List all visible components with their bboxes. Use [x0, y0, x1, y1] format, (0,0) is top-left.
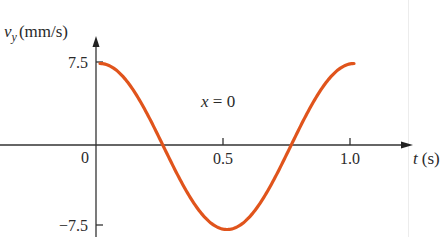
- annotation-label: x = 0: [200, 92, 235, 111]
- x-tick-label-1-0: 1.0: [340, 150, 360, 167]
- velocity-time-chart: vy(mm/s) 7.5 −7.5 0 0.5 1.0 t(s) x = 0: [0, 0, 441, 237]
- origin-label: 0: [81, 149, 89, 166]
- velocity-curve: [100, 64, 354, 230]
- y-axis-label: vy(mm/s): [4, 22, 68, 44]
- y-axis-arrow-icon: [93, 36, 100, 47]
- y-tick-label-bottom: −7.5: [59, 217, 88, 234]
- y-tick-label-top: 7.5: [68, 54, 88, 71]
- x-axis-arrow-icon: [401, 142, 413, 149]
- x-tick-label-0-5: 0.5: [213, 150, 233, 167]
- x-axis-label: t(s): [413, 149, 440, 168]
